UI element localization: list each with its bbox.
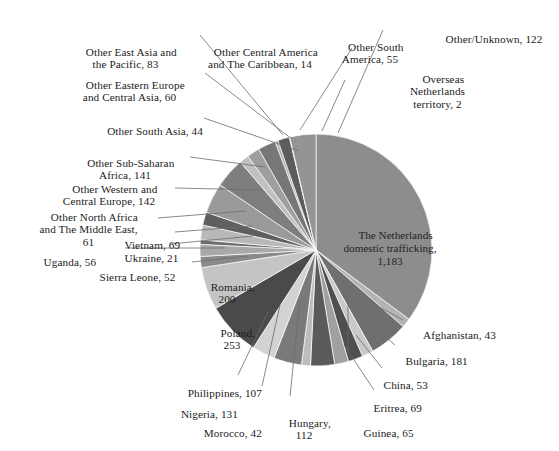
- slice-label-china-text: China, 53: [384, 379, 428, 391]
- slice-label-other-eastern-europe: Other Eastern Europe and Central Asia, 6…: [52, 66, 207, 116]
- slice-label-other-unknown: Other/Unknown, 122: [434, 20, 554, 58]
- slice-label-guinea-text: Guinea, 65: [364, 427, 414, 439]
- slice-label-sierra-leone: Sierra Leone, 52: [88, 258, 193, 296]
- slice-label-afghanistan: Afghanistan, 43: [412, 316, 528, 354]
- slice-label-other-unknown-text: Other/Unknown, 122: [446, 33, 543, 45]
- slice-label-other-eastern-europe-text: Other Eastern Europe and Central Asia, 6…: [83, 79, 185, 104]
- slice-label-romania-text: Romania, 200: [211, 281, 255, 306]
- slice-label-hungary: Hungary, 112: [268, 404, 340, 451]
- slice-label-netherlands: The Netherlands domestic trafficking, 1,…: [330, 216, 450, 281]
- pie-chart-figure: The Netherlands domestic trafficking, 1,…: [0, 0, 559, 451]
- slice-label-overseas-text: Overseas Netherlands territory, 2: [410, 73, 465, 110]
- slice-label-poland: Poland, 253: [196, 314, 268, 364]
- slice-label-poland-text: Poland, 253: [221, 327, 256, 352]
- slice-label-romania: Romania, 200: [188, 268, 266, 318]
- slice-label-afghanistan-text: Afghanistan, 43: [423, 329, 496, 341]
- slice-label-other-south-america-text: Other South America, 55: [342, 41, 404, 66]
- slice-label-other-south-asia-text: Other South Asia, 44: [107, 125, 203, 137]
- slice-label-sierra-leone-text: Sierra Leone, 52: [100, 271, 176, 283]
- slice-label-other-central-america-text: Other Central America and The Caribbean,…: [208, 46, 318, 71]
- slice-label-morocco-text: Morocco, 42: [204, 427, 262, 439]
- slice-label-netherlands-text: The Netherlands domestic trafficking, 1,…: [344, 229, 437, 267]
- slice-label-hungary-text: Hungary, 112: [289, 417, 331, 442]
- slice-label-morocco: Morocco, 42: [130, 414, 262, 451]
- slice-label-bulgaria-text: Bulgaria, 181: [406, 355, 468, 367]
